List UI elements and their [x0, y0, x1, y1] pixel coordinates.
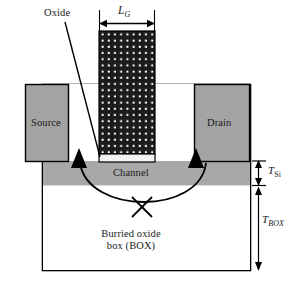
tbox-arrowhead-bottom: [255, 262, 262, 271]
tbox-subscript: BOX: [268, 219, 284, 228]
buried-oxide-label-line1: Burried oxide: [101, 228, 160, 239]
gate-oxide-layer: [99, 154, 155, 162]
gate-electrode: [99, 31, 155, 154]
tsi-subscript: Si: [274, 170, 281, 179]
source-label: Source: [31, 117, 61, 129]
lg-arrowhead-right: [147, 20, 155, 27]
channel-label: Channel: [113, 167, 149, 179]
soi-mosfet-cross-section-figure: Oxide LG Source Drain Channel Burried ox…: [0, 0, 305, 286]
buried-oxide-label: Burried oxide box (BOX): [72, 228, 190, 252]
oxide-label: Oxide: [44, 7, 70, 19]
tsi-arrowhead-bottom: [255, 178, 262, 186]
tbox-arrowhead-top: [255, 187, 262, 196]
buried-oxide-label-line2: box (BOX): [107, 240, 155, 251]
gate-length-label: LG: [118, 4, 130, 20]
box-thickness-label: TBOX: [262, 213, 284, 229]
drain-label: Drain: [207, 117, 231, 129]
gate-length-subscript: G: [125, 10, 131, 19]
silicon-thickness-label: TSi: [268, 164, 281, 180]
gate-drain-gap: [155, 84, 194, 161]
lg-arrowhead-left: [99, 20, 107, 27]
